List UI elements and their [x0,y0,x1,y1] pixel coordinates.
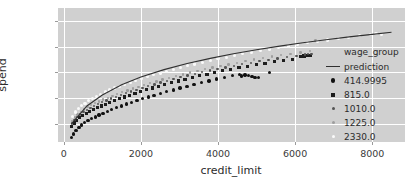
x-tick-label: 2000 [129,148,153,159]
legend-entry[interactable]: prediction [322,60,413,74]
legend-entry[interactable]: 2330.0 [322,130,413,144]
legend-entries: prediction414.9995815.01010.01225.02330.… [322,60,413,144]
legend-dot-marker [332,121,335,124]
y-tick-mark [55,21,58,22]
x-tick-mark [64,142,65,145]
y-tick-mark [55,124,58,125]
x-tick-label: 0 [61,148,67,159]
x-tick-label: 8000 [360,148,384,159]
x-tick-mark [295,142,296,145]
scatter-plot-figure: 20003000400050006000 02000400060008000 s… [0,0,413,183]
legend-circle-marker [331,78,336,83]
legend-dot-marker [332,107,335,110]
legend: wage_group prediction414.9995815.01010.0… [322,47,413,144]
y-tick-mark [55,72,58,73]
x-tick-mark [218,142,219,145]
x-axis-label: credit_limit [200,164,261,177]
legend-entry[interactable]: 414.9995 [322,74,413,88]
x-tick-mark [141,142,142,145]
y-axis-label: spend [0,58,9,91]
x-tick-label: 4000 [206,148,230,159]
legend-entry-label: 815.0 [344,90,370,100]
y-tick-mark [55,47,58,48]
legend-entry-label: 1225.0 [344,118,376,128]
y-axis-label-text: spend [0,58,9,91]
legend-dot-marker [332,135,335,138]
legend-square-marker [331,93,335,97]
y-tick-mark [55,98,58,99]
legend-entry[interactable]: 1225.0 [322,116,413,130]
legend-entry[interactable]: 815.0 [322,88,413,102]
legend-entry-label: 1010.0 [344,104,376,114]
legend-entry-label: prediction [344,62,389,72]
legend-entry-label: 414.9995 [344,76,387,86]
legend-line-marker [326,66,340,67]
legend-entry-label: 2330.0 [344,132,376,142]
legend-entry[interactable]: 1010.0 [322,102,413,116]
legend-title: wage_group [344,47,413,57]
x-tick-label: 6000 [283,148,307,159]
